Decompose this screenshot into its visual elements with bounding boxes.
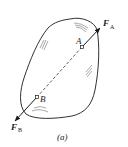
point-b-label: B: [40, 94, 46, 104]
point-a-label: A: [75, 36, 82, 46]
force-b-subscript: B: [18, 127, 22, 133]
point-b-marker: [36, 96, 39, 99]
line-of-action: [37, 47, 82, 97]
force-b-symbol: F: [10, 122, 17, 132]
rigid-body-outline: [21, 18, 99, 118]
two-force-body-diagram: A B F A F B (a): [0, 0, 128, 147]
figure-caption: (a): [57, 132, 68, 142]
force-a-subscript: A: [110, 24, 115, 30]
force-a-symbol: F: [102, 18, 109, 28]
